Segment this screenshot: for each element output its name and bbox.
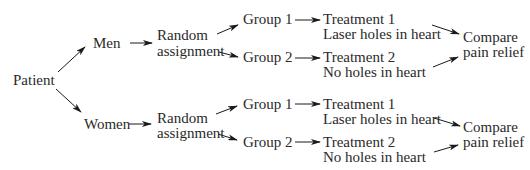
arrow-patient-men <box>58 47 85 72</box>
women-treatment2-description: No holes in heart <box>323 150 426 165</box>
men-treatment2-description: No holes in heart <box>323 65 426 80</box>
men-treatment1-description: Laser holes in heart <box>323 27 441 42</box>
women-group1-node: Group 1 <box>243 97 293 112</box>
women-treatment1-label: Treatment 1 <box>323 97 395 112</box>
men-node: Men <box>93 36 121 51</box>
men-treatment2-label: Treatment 2 <box>323 50 395 65</box>
arrow-women-random-group1 <box>216 106 237 114</box>
men-outcome-line1: Compare <box>463 30 518 45</box>
men-outcome-line2: pain relief <box>463 45 524 60</box>
arrow-men-random-group1 <box>217 25 238 34</box>
women-node: Women <box>84 117 130 132</box>
women-treatment2-label: Treatment 2 <box>323 135 395 150</box>
women-treatment1-description: Laser holes in heart <box>323 112 441 127</box>
men-random-assignment-line1: Random <box>157 28 208 43</box>
block-design-diagram: Patient Men Random assignment Group 1 Gr… <box>0 0 530 170</box>
women-group2-node: Group 2 <box>243 135 293 150</box>
women-random-assignment-line1: Random <box>157 111 208 126</box>
arrow-t2-compare-men <box>433 57 458 67</box>
women-random-assignment-line2: assignment <box>157 126 225 141</box>
men-group1-node: Group 1 <box>243 12 293 27</box>
men-random-assignment-line2: assignment <box>157 44 225 59</box>
men-group2-node: Group 2 <box>243 50 293 65</box>
women-outcome-line2: pain relief <box>463 135 524 150</box>
arrow-patient-women <box>56 89 81 112</box>
patient-node: Patient <box>13 73 55 88</box>
arrow-t2-compare-women <box>434 145 458 152</box>
men-treatment1-label: Treatment 1 <box>323 12 395 27</box>
women-outcome-line1: Compare <box>463 120 518 135</box>
